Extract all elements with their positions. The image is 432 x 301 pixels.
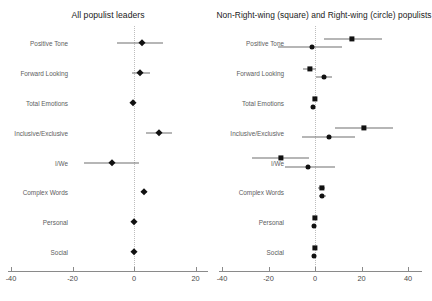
x-axis-tick-label: 20 — [191, 274, 199, 283]
estimate-marker-square — [312, 245, 317, 250]
panel-non-right-wing-and-right-wing: Non-Right-wing (square) and Right-wing (… — [216, 0, 432, 301]
panel-title-right: Non-Right-wing (square) and Right-wing (… — [216, 10, 432, 20]
category-label: Forward Looking — [236, 70, 284, 77]
category-label: Social — [267, 249, 284, 256]
x-axis-tick-label: 0 — [313, 274, 317, 283]
estimate-marker-diamond — [138, 39, 146, 47]
zero-reference-line — [315, 26, 316, 271]
x-axis-tick — [408, 267, 409, 271]
category-label: Forward Looking — [20, 70, 68, 77]
estimate-marker-square — [319, 185, 324, 190]
category-label: Inclusive/Exclusive — [14, 129, 68, 136]
estimate-marker-square — [350, 36, 355, 41]
category-label: Inclusive/Exclusive — [230, 129, 284, 136]
x-axis-tick — [315, 267, 316, 271]
estimate-marker-diamond — [136, 69, 144, 77]
estimate-marker-diamond — [130, 248, 138, 256]
x-axis-tick — [362, 267, 363, 271]
category-label: Positive Tone — [246, 40, 284, 47]
estimate-marker-circle — [309, 45, 314, 50]
estimate-marker-circle — [322, 75, 327, 80]
category-label: Personal — [43, 219, 68, 226]
x-axis-line — [8, 271, 208, 272]
category-label: I/We — [55, 159, 68, 166]
estimate-marker-circle — [320, 194, 325, 199]
x-axis-tick-label: 40 — [404, 274, 412, 283]
x-axis-tick — [222, 267, 223, 271]
estimate-marker-circle — [306, 164, 311, 169]
x-axis-tick — [11, 267, 12, 271]
x-axis-tick-label: -20 — [67, 274, 78, 283]
category-label: Personal — [259, 219, 284, 226]
category-label: Total Emotions — [242, 100, 284, 107]
estimate-marker-diamond — [140, 188, 148, 196]
estimate-marker-square — [361, 126, 366, 131]
estimate-marker-circle — [326, 134, 331, 139]
x-axis-tick — [134, 267, 135, 271]
estimate-marker-diamond — [155, 129, 163, 137]
x-axis-tick — [196, 267, 197, 271]
x-axis-tick-label: 20 — [357, 274, 365, 283]
estimate-marker-square — [312, 96, 317, 101]
estimate-marker-diamond — [108, 159, 116, 167]
estimate-marker-diamond — [129, 99, 137, 107]
estimate-marker-circle — [311, 254, 316, 259]
x-axis-tick — [73, 267, 74, 271]
x-axis-tick-label: -40 — [6, 274, 17, 283]
estimate-marker-square — [279, 156, 284, 161]
x-axis-tick — [269, 267, 270, 271]
zero-reference-line — [134, 26, 135, 271]
x-axis-line — [219, 271, 422, 272]
category-label: Complex Words — [239, 189, 284, 196]
forest-plot-figure: All populist leaders Positive ToneForwar… — [0, 0, 432, 301]
estimate-marker-circle — [310, 105, 315, 110]
estimate-marker-diamond — [130, 218, 138, 226]
estimate-marker-circle — [311, 224, 316, 229]
estimate-marker-square — [307, 66, 312, 71]
x-axis-tick-label: -40 — [217, 274, 228, 283]
x-axis-tick-label: 0 — [132, 274, 136, 283]
category-label: Positive Tone — [30, 40, 68, 47]
x-axis-tick-label: -20 — [263, 274, 274, 283]
category-label: Social — [51, 249, 68, 256]
estimate-marker-square — [312, 215, 317, 220]
category-label: Total Emotions — [26, 100, 68, 107]
panel-title-left: All populist leaders — [0, 10, 216, 20]
category-label: Complex Words — [23, 189, 68, 196]
panel-all-populist-leaders: All populist leaders Positive ToneForwar… — [0, 0, 216, 301]
